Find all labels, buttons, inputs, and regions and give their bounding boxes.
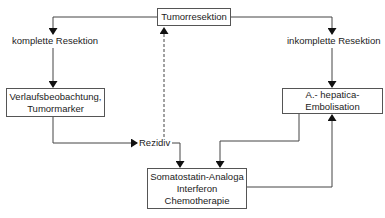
node-verlaufsbeobachtung: Verlaufsbeobachtung, Tumormarker bbox=[6, 88, 105, 117]
node-somatostatin-therapy: Somatostatin-Analoga Interferon Chemothe… bbox=[147, 168, 247, 209]
label-rezidiv: Rezidiv bbox=[138, 137, 171, 148]
node-text: Verlaufsbeobachtung, bbox=[10, 91, 102, 103]
edge-bottom-to-right bbox=[247, 115, 332, 187]
node-text: A.- hepatica- bbox=[306, 89, 360, 101]
node-text: Chemotherapie bbox=[165, 195, 230, 207]
label-complete-resection: komplette Resektion bbox=[10, 35, 100, 46]
node-tumorresektion: Tumorresektion bbox=[157, 8, 231, 26]
node-text: Embolisation bbox=[305, 101, 359, 113]
node-text: Tumormarker bbox=[27, 103, 84, 115]
node-text: Tumorresektion bbox=[161, 11, 227, 23]
label-incomplete-resection: inkomplette Resektion bbox=[285, 35, 382, 46]
edge-top-to-label-incomplete bbox=[230, 17, 332, 34]
node-text: Interferon bbox=[177, 183, 218, 195]
edge-left-to-rezidiv bbox=[53, 117, 137, 143]
node-text: Somatostatin-Analoga bbox=[150, 171, 243, 183]
edge-rezidiv-to-bottom bbox=[172, 143, 180, 167]
edge-right-to-bottom bbox=[220, 114, 299, 167]
node-hepatica-embolisation: A.- hepatica- Embolisation bbox=[282, 88, 383, 114]
edge-top-to-label-complete bbox=[53, 17, 157, 34]
